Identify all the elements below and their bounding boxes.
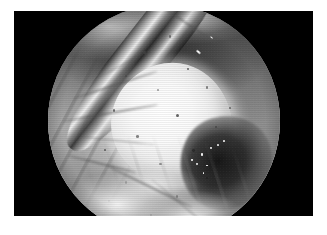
image-frame	[14, 11, 313, 216]
figure-page	[0, 0, 327, 235]
endoscope-field-of-view	[48, 11, 280, 216]
scope-vignette	[48, 11, 280, 216]
